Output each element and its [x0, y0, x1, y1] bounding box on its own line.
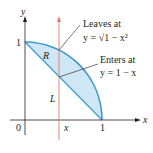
enters-title: Enters at — [100, 54, 135, 65]
x-axis-arrow-icon — [135, 118, 141, 122]
x-variable-label: x — [63, 122, 69, 133]
leaves-equation: y = √1 − x² — [83, 32, 128, 43]
enters-equation: y = 1 − x — [100, 67, 136, 78]
x-axis-label: x — [142, 114, 148, 125]
origin-label: 0 — [16, 122, 21, 133]
y-axis-label: y — [20, 6, 26, 17]
x-tick-1: 1 — [100, 122, 105, 133]
vertical-line-arrow-icon — [57, 16, 61, 22]
y-tick-1: 1 — [16, 37, 21, 48]
region-r-label: R — [42, 50, 49, 61]
leader-leaves — [59, 25, 80, 50]
region-l-label: L — [49, 93, 56, 104]
leaves-title: Leaves at — [83, 18, 121, 29]
